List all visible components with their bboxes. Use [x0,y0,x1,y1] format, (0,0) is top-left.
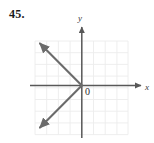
origin-label: 0 [85,87,90,97]
x-axis-label: x [145,83,149,92]
y-axis-label: y [78,14,82,23]
figure-page: 45. [0,0,154,143]
coordinate-plane-figure [0,0,154,143]
